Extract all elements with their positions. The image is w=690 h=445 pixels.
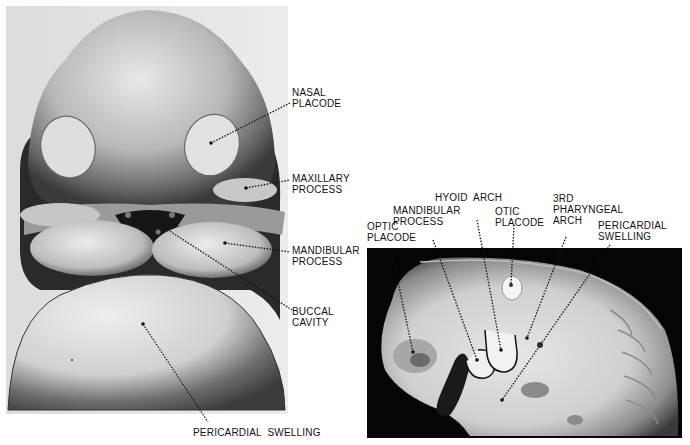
label-otic-placode: OTIC PLACODE xyxy=(495,206,544,228)
label-buccal-cavity: BUCCAL CAVITY xyxy=(292,306,334,328)
label-maxillary-process: MAXILLARY PROCESS xyxy=(292,173,350,195)
label-pericardial-swelling-left: PERICARDIAL SWELLING xyxy=(193,427,321,438)
label-nasal-placode: NASAL PLACODE xyxy=(292,87,341,109)
right-panel-photo xyxy=(367,248,682,438)
label-hyoid-arch: HYOID ARCH xyxy=(435,192,502,203)
label-pericardial-swelling-right: PERICARDIAL SWELLING xyxy=(598,220,667,242)
left-panel-drawing xyxy=(6,6,288,414)
embryo-figure: NASAL PLACODE MAXILLARY PROCESS MANDIBUL… xyxy=(0,0,690,445)
label-mandibular-process-right: MANDIBULAR PROCESS xyxy=(393,205,461,227)
label-mandibular-process-left: MANDIBULAR PROCESS xyxy=(292,245,360,267)
